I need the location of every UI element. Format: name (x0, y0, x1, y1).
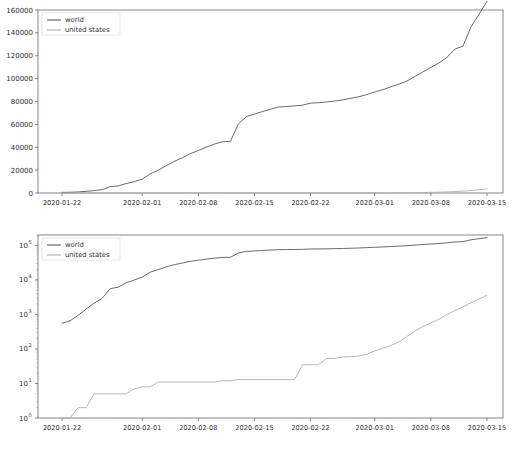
log-chart-legend-label-world: world (65, 241, 84, 249)
linear-chart-x-tick-label: 2020-03-15 (468, 199, 506, 207)
linear-chart-x-tick-label: 2020-02-15 (235, 199, 273, 207)
log-scale-chart-panel: 1001011021031041052020-01-222020-02-0120… (0, 225, 514, 450)
log-chart-x-tick-label: 2020-03-01 (356, 424, 394, 432)
linear-chart-y-axis: 0200004000060000800001000001200001400001… (6, 7, 38, 198)
log-chart-series-group (62, 238, 487, 418)
linear-chart-y-tick-label: 20000 (11, 167, 33, 175)
linear-chart-y-tick-label: 60000 (11, 121, 33, 129)
linear-chart-y-tick-label: 80000 (11, 98, 33, 106)
linear-chart-series-group (62, 1, 487, 193)
linear-chart-x-tick-label: 2020-03-01 (356, 199, 394, 207)
log-chart-y-tick-exponent: 0 (29, 412, 32, 418)
linear-chart-y-tick-label: 40000 (11, 144, 33, 152)
linear-chart-x-axis: 2020-01-222020-02-012020-02-082020-02-15… (43, 193, 506, 207)
linear-scale-chart-panel: 0200004000060000800001000001200001400001… (0, 0, 514, 225)
log-chart-line-world (62, 238, 487, 324)
linear-chart-y-tick-label: 140000 (6, 29, 33, 37)
log-chart-x-tick-label: 2020-03-08 (412, 424, 450, 432)
log-chart-svg: 1001011021031041052020-01-222020-02-0120… (0, 225, 514, 450)
log-chart-y-tick-exponent: 4 (29, 273, 32, 279)
log-chart-y-tick-exponent: 3 (29, 308, 32, 314)
log-chart-y-tick-label: 10 (19, 242, 28, 250)
log-chart-y-tick-label: 10 (19, 380, 28, 388)
log-chart-legend-label-united-states: united states (65, 251, 110, 259)
linear-chart-y-tick-label: 100000 (6, 75, 33, 83)
matplotlib-figure: 0200004000060000800001000001200001400001… (0, 0, 514, 450)
linear-chart-x-tick-label: 2020-03-08 (412, 199, 450, 207)
log-chart-y-axis: 100101102103104105 (19, 235, 38, 423)
linear-chart-y-tick-label: 0 (29, 190, 33, 198)
linear-chart-legend-label-world: world (65, 16, 84, 24)
log-chart-x-tick-label: 2020-02-01 (123, 424, 161, 432)
linear-chart-y-tick-label: 120000 (6, 52, 33, 60)
linear-chart-svg: 0200004000060000800001000001200001400001… (0, 0, 514, 225)
log-chart-y-tick-label: 10 (19, 415, 28, 423)
linear-chart-y-tick-label: 160000 (6, 7, 33, 15)
log-chart-x-tick-label: 2020-01-22 (43, 424, 81, 432)
log-chart-plot-frame (38, 235, 503, 418)
log-chart-x-tick-label: 2020-03-15 (468, 424, 506, 432)
log-chart-x-tick-label: 2020-02-15 (235, 424, 273, 432)
log-chart-legend: worldunited states (42, 238, 120, 260)
log-chart-x-tick-label: 2020-02-22 (291, 424, 329, 432)
log-chart-y-tick-label: 10 (19, 311, 28, 319)
linear-chart-x-tick-label: 2020-02-08 (179, 199, 217, 207)
log-chart-x-axis: 2020-01-222020-02-012020-02-082020-02-15… (43, 418, 506, 432)
linear-chart-line-world (62, 1, 487, 192)
log-chart-line-united-states (62, 295, 487, 418)
log-chart-y-tick-exponent: 5 (29, 239, 32, 245)
linear-chart-legend: worldunited states (42, 13, 120, 35)
log-chart-y-tick-exponent: 1 (29, 377, 32, 383)
linear-chart-x-tick-label: 2020-02-01 (123, 199, 161, 207)
log-chart-y-tick-label: 10 (19, 276, 28, 284)
linear-chart-x-tick-label: 2020-01-22 (43, 199, 81, 207)
linear-chart-x-tick-label: 2020-02-22 (291, 199, 329, 207)
log-chart-y-tick-label: 10 (19, 345, 28, 353)
log-chart-x-tick-label: 2020-02-08 (179, 424, 217, 432)
linear-chart-legend-label-united-states: united states (65, 26, 110, 34)
linear-chart-line-united-states (62, 189, 487, 193)
log-chart-y-tick-exponent: 2 (29, 342, 32, 348)
linear-chart-plot-frame (38, 10, 503, 193)
